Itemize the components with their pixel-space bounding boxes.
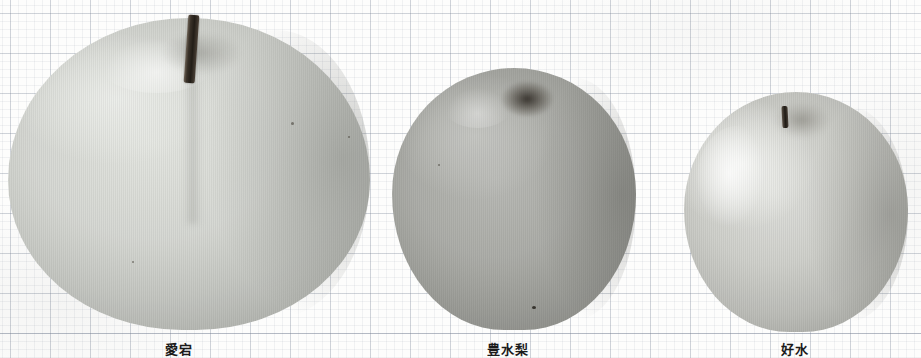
surface-speck (132, 261, 134, 263)
pear-varieties-plate: 愛宕 豊水梨 好水 (0, 0, 921, 358)
pear-stem-3 (781, 106, 788, 128)
specimen-caption-1: 愛宕 (165, 342, 193, 358)
pear-highlight-3 (697, 126, 778, 232)
pear-calyx-cavity-2 (494, 76, 557, 118)
pear-calyx-cavity-1 (153, 24, 247, 74)
surface-speck (291, 122, 294, 125)
surface-speck (438, 164, 440, 166)
specimen-caption-2: 豊水梨 (487, 342, 529, 358)
baseline-rule (0, 333, 921, 334)
specimen-caption-3: 好水 (781, 342, 809, 358)
pear-specimen-1 (8, 18, 370, 330)
pear-specimen-3 (684, 92, 908, 332)
pear-specimen-2 (392, 68, 636, 330)
pear-shading-3 (787, 106, 908, 322)
pear-calyx-cavity-3 (769, 97, 832, 138)
surface-speck (348, 136, 350, 138)
surface-speck (532, 306, 536, 309)
